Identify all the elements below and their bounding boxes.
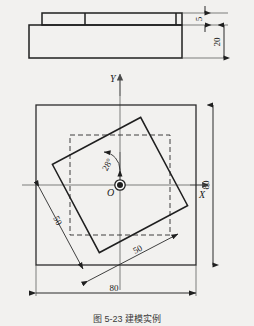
front-view-group: 5 20	[29, 6, 228, 58]
dim-label-50-left: 50	[51, 214, 64, 227]
top-view-group: Y X 28° 50 50 80 80 O	[22, 73, 213, 296]
base-block-outline	[29, 25, 182, 58]
axis-x-label: X	[198, 189, 206, 200]
origin-label: O	[107, 187, 114, 198]
dim-50-left-line	[39, 187, 83, 269]
dim-label-50-right: 50	[131, 243, 144, 256]
top-plate-outline	[42, 13, 182, 25]
dim-label-80-bottom: 80	[110, 283, 120, 293]
dim-label-80-right: 80	[201, 180, 211, 190]
dim-50-right-line	[88, 234, 178, 281]
technical-drawing: 5 20 Y X 28° 50 50 80	[0, 0, 254, 326]
dim-label-5: 5	[194, 16, 204, 21]
dim-label-28deg: 28°	[100, 156, 115, 172]
figure-caption: 图 5-23 建模实例	[93, 313, 161, 324]
dim-label-20: 20	[212, 37, 222, 47]
origin-marker-dot	[117, 182, 123, 188]
axis-y-label: Y	[110, 73, 117, 84]
